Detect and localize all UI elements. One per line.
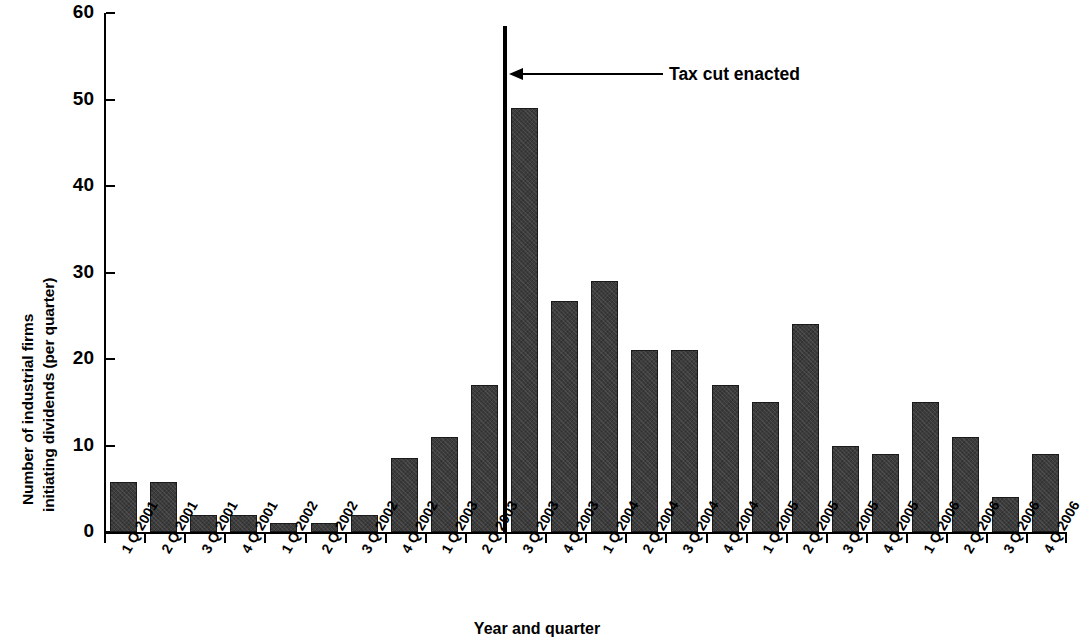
- x-axis-tick: [305, 534, 307, 543]
- y-axis-tick-label: 40: [48, 175, 94, 194]
- y-axis-tick: [106, 445, 115, 447]
- x-axis-tick: [345, 534, 347, 543]
- y-axis-tick-label: 0: [48, 521, 94, 540]
- x-axis-tick: [786, 534, 788, 543]
- y-axis-tick-label: 20: [48, 348, 94, 367]
- y-axis-tick: [106, 185, 115, 187]
- x-axis-tick: [906, 534, 908, 543]
- x-axis-tick: [184, 534, 186, 543]
- bar: [792, 324, 819, 532]
- x-axis-tick: [866, 534, 868, 543]
- x-axis-title: Year and quarter: [0, 620, 1074, 638]
- bar: [952, 437, 979, 532]
- x-axis-tick: [826, 534, 828, 543]
- y-axis-tick-label: 10: [48, 435, 94, 454]
- bar: [591, 281, 618, 532]
- x-axis-tick: [104, 534, 106, 543]
- bar: [511, 108, 538, 532]
- y-axis-title-line-2: initiating dividends (per quarter): [39, 278, 59, 512]
- x-axis-tick: [224, 534, 226, 543]
- x-axis-tick: [264, 534, 266, 543]
- x-axis-tick: [425, 534, 427, 543]
- y-axis-tick: [106, 12, 115, 14]
- x-axis-tick: [625, 534, 627, 543]
- y-axis-tick: [106, 358, 115, 360]
- y-axis-tick: [106, 99, 115, 101]
- x-axis-tick: [746, 534, 748, 543]
- y-axis-title-line-1: Number of industrial firms: [18, 314, 38, 505]
- y-axis-tick-label: 60: [48, 2, 94, 21]
- bar: [551, 301, 578, 532]
- x-axis-tick: [665, 534, 667, 543]
- y-axis-tick-label: 30: [48, 262, 94, 281]
- x-axis-tick: [465, 534, 467, 543]
- x-axis-tick: [706, 534, 708, 543]
- tax-cut-annotation-label: Tax cut enacted: [669, 64, 800, 85]
- y-axis-line: [104, 13, 106, 534]
- tax-cut-event-line: [503, 26, 507, 532]
- x-axis-tick: [1026, 534, 1028, 543]
- x-axis-tick: [986, 534, 988, 543]
- bar: [431, 437, 458, 532]
- x-axis-tick: [385, 534, 387, 543]
- y-axis-tick-label: 50: [48, 89, 94, 108]
- x-axis-tick: [946, 534, 948, 543]
- x-axis-tick: [545, 534, 547, 543]
- x-axis-tick: [585, 534, 587, 543]
- x-axis-tick: [505, 534, 507, 543]
- y-axis-tick: [106, 272, 115, 274]
- x-axis-tick: [144, 534, 146, 543]
- annotation-arrow-icon: [505, 64, 665, 84]
